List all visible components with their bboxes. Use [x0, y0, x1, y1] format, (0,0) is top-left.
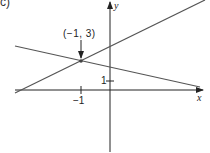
intersection-point — [79, 59, 83, 63]
x-tick-label: −1 — [73, 95, 85, 106]
y-axis-label: y — [113, 0, 119, 11]
intersection-label: (−1, 3) — [63, 28, 96, 39]
y-tick-label: 1 — [101, 75, 107, 86]
graph: (−1, 3) −1 1 x y — [0, 0, 210, 153]
x-axis-label: x — [196, 92, 202, 103]
